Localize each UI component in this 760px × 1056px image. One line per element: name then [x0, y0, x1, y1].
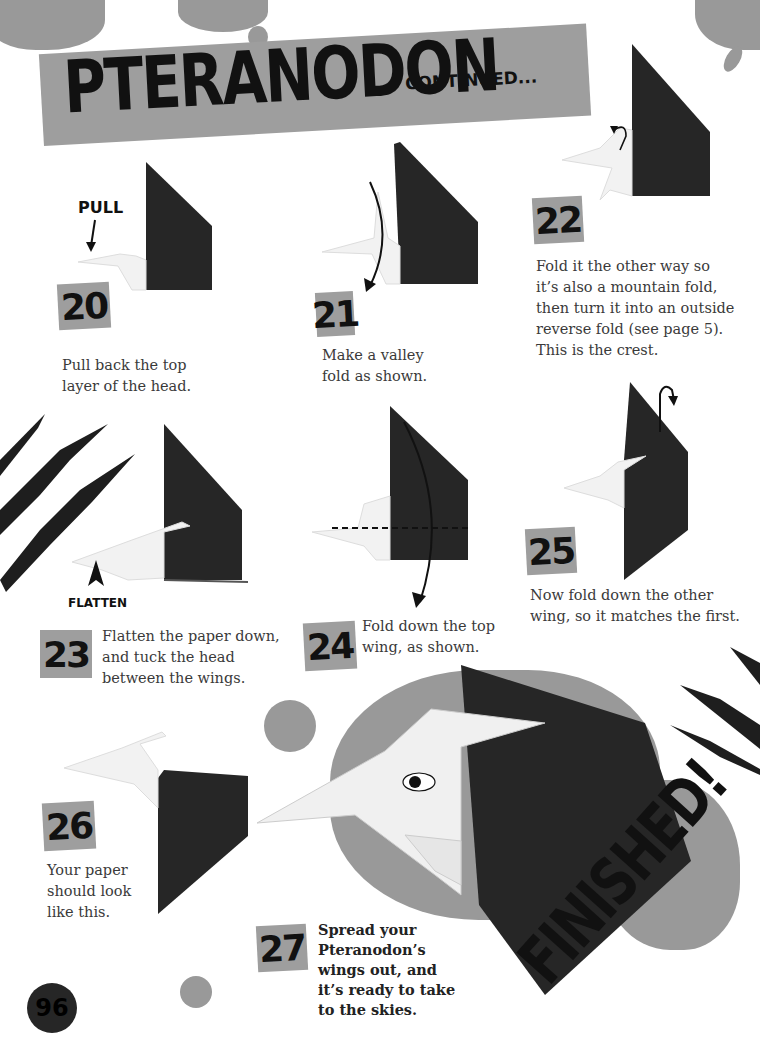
step-caption: Your papershould looklike this.	[47, 860, 131, 923]
pull-label: PULL	[78, 198, 123, 217]
step-caption: Fold it the other way soit’s also a moun…	[536, 256, 734, 361]
arrow-up-icon	[88, 560, 104, 588]
step-number-badge: 26	[42, 801, 96, 852]
step-number-badge: 25	[525, 527, 577, 576]
step-number-badge: 27	[256, 924, 308, 973]
step-caption: Make a valleyfold as shown.	[322, 345, 427, 387]
step-caption: Pull back the toplayer of the head.	[62, 355, 191, 397]
step-24-model-illustration	[308, 404, 478, 564]
page-number: 96	[27, 983, 77, 1033]
step-number-badge: 24	[303, 621, 357, 672]
ink-splatter-drop-bottom	[180, 976, 212, 1008]
step-caption: Flatten the paper down,and tuck the head…	[102, 626, 280, 689]
flatten-label: FLATTEN	[68, 596, 127, 610]
step-number-badge: 23	[40, 630, 92, 678]
step-caption: Now fold down the otherwing, so it match…	[530, 585, 740, 627]
step-caption: Fold down the topwing, as shown.	[362, 616, 495, 658]
ink-splatter-top-left	[0, 0, 105, 50]
arrow-down-icon	[86, 220, 100, 252]
mountain-fold-arrow-icon	[608, 122, 638, 152]
step-number-badge: 22	[532, 196, 584, 245]
step-21-model-illustration	[318, 142, 488, 292]
curved-arrow-down-icon	[400, 420, 440, 610]
curved-arrow-icon	[360, 180, 400, 295]
step-number-badge: 20	[57, 282, 111, 331]
fold-behind-arrow-icon	[656, 382, 680, 434]
step-number-badge: 21	[315, 291, 355, 337]
step-caption: Spread yourPteranodon’swings out, andit’…	[318, 920, 455, 1020]
step-22-model-illustration	[560, 40, 720, 200]
